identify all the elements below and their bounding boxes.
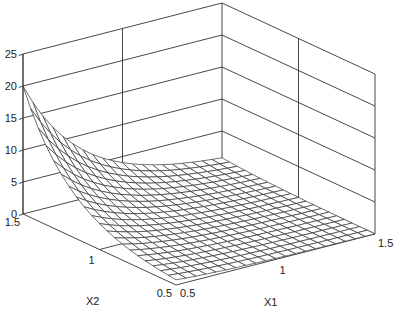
x1-axis-label: X1 — [264, 296, 277, 308]
z-tick-label: 10 — [5, 144, 17, 156]
x2-tick-label: 1 — [88, 254, 94, 266]
gridline-z — [23, 35, 375, 106]
x1-tick-label: 1 — [280, 264, 286, 276]
surface-plot: 05101520251.510.50.511.5 X1 X2 — [0, 0, 396, 317]
surface-mesh — [23, 86, 375, 280]
z-tick-label: 25 — [5, 48, 17, 60]
x1-tick-label: 0.5 — [180, 287, 195, 299]
z-tick-mark — [19, 86, 23, 88]
x2-tick-label: 0.5 — [157, 287, 172, 299]
z-tick-label: 15 — [5, 112, 17, 124]
surface-cell — [23, 86, 41, 122]
gridline-z — [23, 3, 375, 74]
x2-tick-label: 1.5 — [5, 216, 20, 228]
z-tick-mark — [19, 54, 23, 56]
x1-tick-label: 1.5 — [378, 237, 393, 249]
z-tick-label: 20 — [5, 80, 17, 92]
z-tick-mark — [19, 150, 23, 152]
gridline-z — [23, 67, 375, 138]
z-tick-mark — [19, 182, 23, 184]
z-tick-mark — [19, 118, 23, 120]
z-tick-label: 5 — [11, 176, 17, 188]
x2-axis-label: X2 — [86, 295, 99, 307]
